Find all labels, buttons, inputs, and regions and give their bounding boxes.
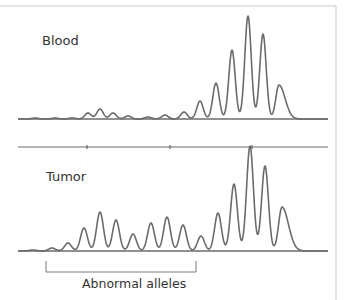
divider-axis [18,145,328,149]
abnormal-alleles-caption: Abnormal alleles [82,276,186,291]
blood-label: Blood [42,33,79,48]
tumor-label: Tumor [46,169,86,184]
blood-panel [18,16,328,119]
tumor-panel [18,146,328,251]
abnormal-alleles-bracket [46,261,196,272]
tumor-trace [18,146,328,251]
blood-trace [18,16,328,119]
